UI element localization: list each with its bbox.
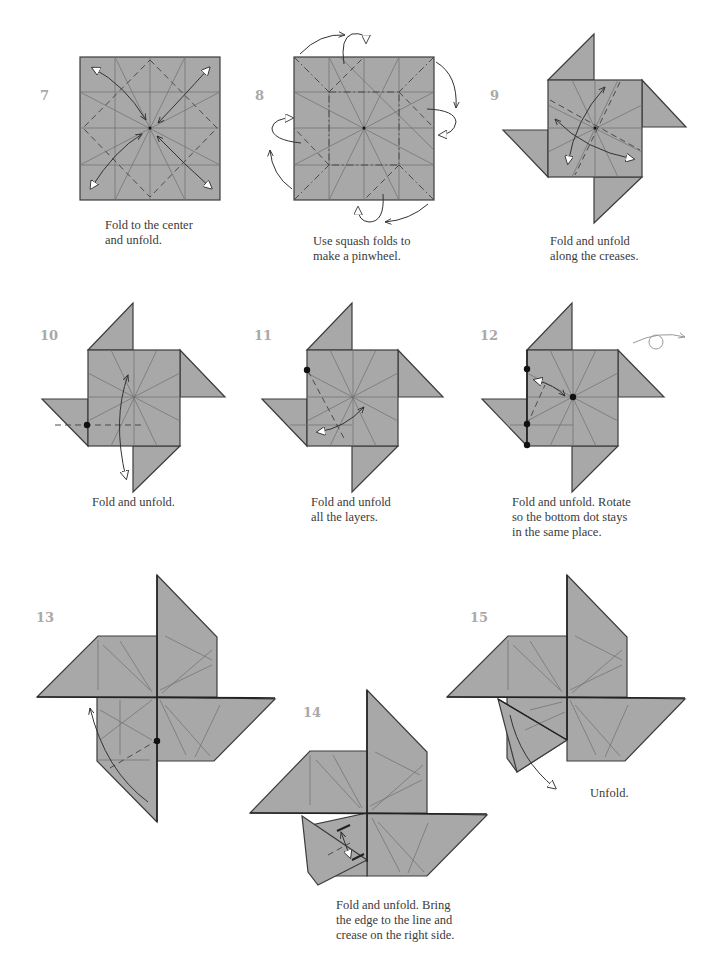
- step-8-diagram: [270, 34, 456, 222]
- step-9-diagram: [503, 34, 686, 223]
- step-13-diagram: [37, 575, 275, 822]
- rotate-over-icon: [633, 335, 685, 349]
- origami-diagrams: [0, 0, 722, 968]
- step-11-diagram: [262, 303, 443, 492]
- step-10-diagram: [42, 303, 225, 492]
- step-14-diagram: [250, 690, 487, 885]
- step-12-diagram: [482, 303, 685, 492]
- step-7-diagram: [80, 57, 220, 200]
- step-15-diagram: [447, 575, 685, 788]
